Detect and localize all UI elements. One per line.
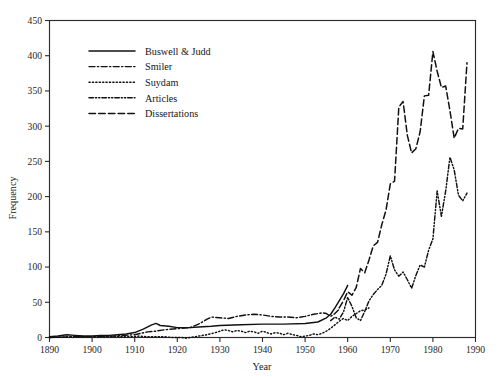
x-tick-label: 1920	[168, 344, 187, 355]
y-tick-label: 250	[28, 156, 43, 167]
series-line-articles	[331, 157, 467, 320]
y-tick-label: 350	[28, 85, 43, 96]
y-tick-label: 450	[28, 15, 43, 26]
y-axis-title: Frequency	[7, 176, 18, 220]
x-axis-title: Year	[253, 361, 272, 372]
x-tick-label: 1890	[40, 344, 59, 355]
x-tick-label: 1930	[210, 344, 229, 355]
x-tick-label: 1990	[466, 344, 485, 355]
x-tick-label: 1900	[83, 344, 102, 355]
chart-figure: 050100150200250300350400450 189019001910…	[0, 0, 498, 377]
legend-label-buswell-judd: Buswell & Judd	[145, 46, 211, 57]
x-tick-label: 1960	[338, 344, 357, 355]
y-tick-label: 300	[28, 121, 43, 132]
plot-frame	[50, 21, 476, 338]
legend-label-smiler: Smiler	[145, 61, 173, 72]
y-tick-label: 50	[32, 297, 42, 308]
x-tick-label: 1980	[423, 344, 442, 355]
y-tick-label: 0	[37, 332, 42, 343]
series-line-buswell-judd	[50, 285, 348, 336]
y-tick-label: 200	[28, 191, 43, 202]
legend-label-articles: Articles	[145, 93, 177, 104]
x-tick-label: 1940	[253, 344, 272, 355]
legend-label-dissertations: Dissertations	[145, 108, 198, 119]
y-tick-label: 400	[28, 50, 43, 61]
chart-legend: Buswell & JuddSmilerSuydamArticlesDisser…	[89, 46, 211, 119]
legend-label-suydam: Suydam	[145, 77, 178, 88]
x-tick-label: 1970	[381, 344, 400, 355]
x-tick-label: 1950	[296, 344, 315, 355]
series-lines	[50, 52, 467, 339]
frequency-by-year-line-chart: 050100150200250300350400450 189019001910…	[0, 0, 498, 377]
y-tick-label: 150	[28, 226, 43, 237]
x-axis-ticks: 1890190019101920193019401950196019701980…	[40, 338, 485, 356]
y-axis-ticks: 050100150200250300350400450	[28, 15, 50, 343]
x-tick-label: 1910	[125, 344, 144, 355]
y-tick-label: 100	[28, 261, 43, 272]
